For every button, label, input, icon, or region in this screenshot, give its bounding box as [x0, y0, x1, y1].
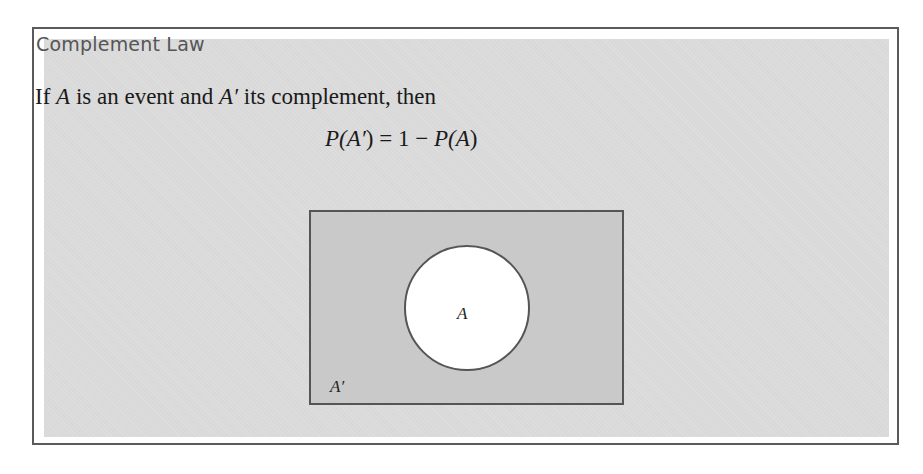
set-a-label: A [456, 304, 468, 323]
complement-label: A′ [329, 377, 344, 396]
venn-diagram: A A′ [0, 0, 923, 474]
